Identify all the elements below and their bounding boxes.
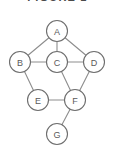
- node-label-c: C: [54, 58, 61, 68]
- graph-edge-b-e: [24, 71, 33, 90]
- graph-edge-c-f: [61, 71, 70, 90]
- graph-edge-d-f: [80, 71, 90, 90]
- node-layer: ABCDEFG: [10, 21, 105, 145]
- graph-node-c[interactable]: C: [47, 52, 68, 73]
- node-label-b: B: [17, 58, 23, 68]
- graph-edge-a-b: [28, 38, 49, 56]
- graph-node-d[interactable]: D: [84, 52, 105, 73]
- graph-diagram-canvas: FIGURE 1 ABCDEFG: [0, 0, 115, 152]
- graph-edge-a-d: [65, 38, 86, 56]
- node-label-a: A: [54, 27, 60, 37]
- graph-edge-f-g: [62, 109, 70, 124]
- node-label-f: F: [72, 96, 78, 106]
- graph-svg: ABCDEFG: [0, 0, 115, 152]
- graph-node-b[interactable]: B: [10, 52, 31, 73]
- node-label-e: E: [35, 96, 41, 106]
- node-label-d: D: [91, 58, 98, 68]
- graph-node-a[interactable]: A: [47, 21, 68, 42]
- graph-node-g[interactable]: G: [47, 124, 68, 145]
- node-label-g: G: [53, 130, 60, 140]
- graph-node-e[interactable]: E: [28, 90, 49, 111]
- graph-node-f[interactable]: F: [65, 90, 86, 111]
- edge-layer: [24, 38, 89, 125]
